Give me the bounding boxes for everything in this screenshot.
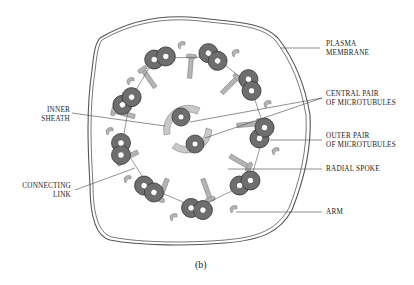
label-central-pair: CENTRAL PAIR OF MICROTUBULES: [326, 90, 396, 108]
label-outer-pair: OUTER PAIR OF MICROTUBULES: [326, 132, 396, 150]
label-inner-sheath: INNER SHEATH: [30, 106, 70, 124]
figure-caption: (b): [195, 259, 207, 270]
label-connecting-link: CONNECTING LINK: [15, 182, 71, 200]
label-arm: ARM: [326, 208, 343, 217]
axoneme-diagram: PLASMA MEMBRANE CENTRAL PAIR OF MICROTUB…: [0, 0, 414, 285]
label-radial-spoke: RADIAL SPOKE: [326, 165, 380, 174]
outer-doublets: [109, 40, 277, 221]
label-plasma-membrane: PLASMA MEMBRANE: [326, 40, 369, 58]
